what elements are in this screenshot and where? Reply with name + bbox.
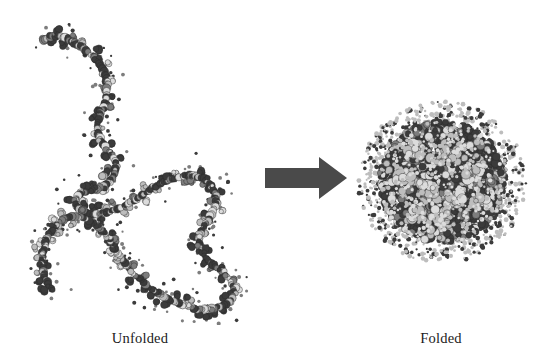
atom-sphere [394, 179, 397, 182]
atom-sphere [493, 235, 495, 237]
atom-sphere [478, 149, 483, 154]
atom-sphere [212, 233, 215, 236]
atom-sphere [465, 222, 469, 226]
atom-sphere [411, 204, 416, 209]
atom-sphere [103, 211, 107, 215]
atom-sphere [427, 149, 430, 152]
atom-sphere [383, 173, 386, 176]
atom-sphere [465, 171, 468, 174]
atom-sphere [483, 186, 485, 188]
atom-sphere [245, 289, 248, 292]
atom-sphere [383, 238, 387, 242]
atom-sphere [400, 169, 404, 173]
atom-sphere [465, 208, 469, 212]
atom-sphere [100, 216, 105, 221]
atom-sphere [456, 206, 458, 208]
atom-sphere [435, 193, 438, 196]
atom-sphere [368, 214, 370, 216]
atom-sphere [387, 122, 391, 126]
atom-sphere [197, 300, 200, 303]
atom-sphere [514, 146, 516, 148]
atom-sphere [492, 224, 494, 226]
atom-sphere [438, 218, 442, 222]
atom-sphere [438, 179, 441, 182]
atom-sphere [415, 241, 417, 243]
atom-sphere [511, 151, 516, 156]
atom-sphere [522, 165, 524, 167]
atom-sphere [484, 166, 486, 168]
atom-sphere [452, 223, 456, 227]
atom-sphere [475, 243, 478, 246]
atom-sphere [425, 147, 427, 149]
atom-sphere [195, 291, 198, 294]
atom-sphere [100, 167, 103, 170]
atom-sphere [447, 150, 450, 153]
atom-sphere [476, 117, 478, 119]
unfolded-atom-group [29, 23, 248, 325]
atom-sphere [420, 251, 425, 256]
atom-sphere [155, 176, 157, 178]
atom-sphere [464, 167, 467, 170]
atom-sphere [503, 210, 507, 214]
atom-sphere [502, 139, 506, 143]
atom-sphere [393, 211, 396, 214]
atom-sphere [494, 172, 496, 174]
atom-sphere [459, 144, 463, 148]
atom-sphere [409, 233, 413, 237]
atom-sphere [521, 198, 525, 202]
atom-sphere [414, 128, 418, 132]
atom-sphere [513, 182, 518, 187]
atom-sphere [449, 254, 453, 258]
atom-sphere [405, 108, 409, 112]
atom-sphere [362, 206, 366, 210]
atom-sphere [429, 168, 432, 171]
atom-sphere [385, 130, 388, 133]
atom-sphere [503, 146, 505, 148]
atom-sphere [477, 137, 480, 140]
atom-sphere [132, 301, 136, 305]
atom-sphere [398, 112, 402, 116]
atom-sphere [78, 230, 80, 232]
atom-sphere [376, 201, 378, 203]
atom-sphere [490, 207, 493, 210]
atom-sphere [429, 248, 432, 251]
atom-sphere [437, 182, 440, 185]
atom-sphere [434, 157, 436, 159]
atom-sphere [489, 157, 491, 159]
atom-sphere [391, 204, 394, 207]
atom-sphere [494, 185, 497, 188]
atom-sphere [116, 223, 119, 226]
atom-sphere [498, 184, 502, 188]
atom-sphere [192, 288, 194, 290]
atom-sphere [487, 149, 491, 153]
atom-sphere [442, 119, 448, 125]
atom-sphere [222, 292, 229, 299]
atom-sphere [457, 102, 460, 105]
atom-sphere [495, 190, 499, 194]
atom-sphere [91, 228, 94, 231]
atom-sphere [392, 157, 395, 160]
atom-sphere [449, 246, 453, 250]
atom-sphere [366, 179, 368, 181]
atom-sphere [463, 257, 465, 259]
atom-sphere [446, 105, 450, 109]
atom-sphere [385, 135, 387, 137]
atom-sphere [404, 155, 408, 159]
atom-sphere [508, 198, 512, 202]
atom-sphere [518, 161, 522, 165]
atom-sphere [434, 175, 438, 179]
atom-sphere [59, 41, 64, 46]
atom-sphere [418, 237, 421, 240]
atom-sphere [482, 126, 484, 128]
atom-sphere [372, 191, 376, 195]
atom-sphere [195, 152, 198, 155]
atom-sphere [408, 173, 412, 177]
atom-sphere [426, 229, 430, 233]
atom-sphere [105, 115, 109, 119]
atom-sphere [370, 223, 374, 227]
atom-sphere [107, 121, 110, 124]
atom-sphere [454, 164, 456, 166]
atom-sphere [447, 110, 449, 112]
atom-sphere [109, 199, 114, 204]
atom-sphere [384, 214, 386, 216]
